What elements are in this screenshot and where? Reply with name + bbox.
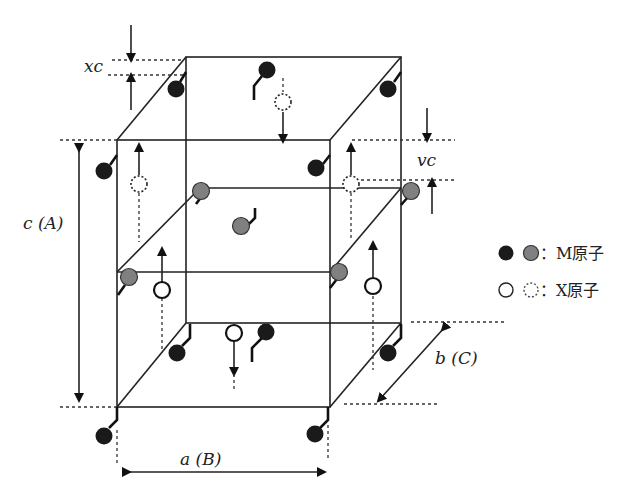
crystal-structure-diagram: xc vc c (A) a (B) b (C)	[0, 0, 637, 495]
c-axis-label: c (A)	[23, 213, 63, 233]
m-atom-gray	[331, 264, 348, 281]
x-atom-open	[226, 325, 242, 341]
m-atoms-gray	[121, 183, 420, 286]
x-atom-open	[154, 282, 170, 298]
unit-cell-edges	[117, 57, 401, 407]
x-atom-dotted	[343, 176, 359, 192]
edge-bottom-right	[330, 323, 401, 407]
legend-m-atom-text: ：M原子	[540, 244, 604, 263]
m-atom-dark	[96, 163, 113, 180]
xc-label: xc	[84, 56, 104, 76]
edge-top-right	[330, 57, 401, 140]
m-stem	[180, 72, 186, 82]
m-atom-gray	[121, 269, 138, 286]
x-atom-dotted	[275, 94, 291, 110]
legend-black-circle-icon	[499, 246, 514, 261]
legend: ：M原子 ：X原子	[499, 244, 605, 300]
m-atoms-dark	[96, 62, 397, 445]
legend-item-m-atom: ：M原子	[499, 244, 605, 263]
m-stem	[252, 338, 262, 362]
m-atom-gray	[193, 183, 210, 200]
m-stem	[320, 407, 328, 428]
mid-plane-left	[117, 188, 200, 272]
m-atom-stems	[109, 72, 408, 428]
b-axis-label: b (C)	[435, 348, 478, 368]
legend-dotted-circle-icon	[524, 283, 538, 297]
m-atom-dark	[96, 428, 113, 445]
edge-bottom-left	[117, 323, 186, 407]
m-atom-dark	[258, 324, 275, 341]
mid-plane-right	[330, 188, 401, 272]
m-stem	[109, 407, 117, 428]
m-atom-dark	[380, 81, 397, 98]
m-atom-dark	[169, 345, 186, 362]
m-atom-dark	[259, 62, 276, 79]
edge-top-left	[117, 57, 186, 140]
legend-x-atom-text: ：X原子	[540, 281, 599, 300]
m-atom-dark	[168, 81, 185, 98]
m-atom-gray	[403, 183, 420, 200]
m-stem	[118, 285, 125, 295]
m-stem	[110, 155, 117, 165]
vc-label: vc	[417, 150, 437, 170]
a-axis-label: a (B)	[180, 449, 221, 469]
m-atom-dark	[380, 345, 397, 362]
m-stem	[323, 155, 330, 164]
m-stem	[394, 72, 401, 82]
m-atom-dark	[308, 160, 325, 177]
m-atom-dark	[307, 426, 324, 443]
legend-gray-circle-icon	[524, 246, 539, 261]
x-atom-open	[365, 278, 381, 294]
legend-item-x-atom: ：X原子	[499, 281, 599, 300]
m-stem	[254, 76, 262, 100]
x-atom-dotted	[131, 176, 147, 192]
m-atom-gray	[233, 218, 250, 235]
legend-open-circle-icon	[499, 283, 513, 297]
